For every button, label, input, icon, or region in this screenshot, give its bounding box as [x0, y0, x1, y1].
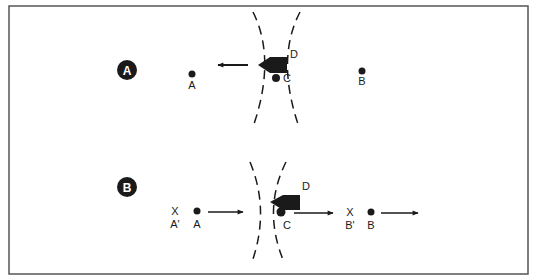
point-d-label: D: [290, 48, 298, 60]
point-b-label: B: [358, 75, 365, 87]
point-b-label: B: [367, 219, 374, 231]
point-a-dot: [194, 208, 201, 215]
point-a-dot: [189, 71, 196, 78]
point-a-prime-label: A': [170, 218, 179, 230]
point-c-label: C: [283, 72, 291, 84]
point-b-prime-label: B': [345, 219, 354, 231]
point-b-dot: [368, 209, 375, 216]
point-b-dot: [359, 68, 366, 75]
panel-a: A A D C B: [117, 12, 366, 124]
point-c-dot: [277, 208, 286, 217]
point-c-dot: [272, 74, 280, 82]
point-a-label: A: [193, 218, 201, 230]
panel-a-badge: A: [117, 60, 137, 80]
ship-d-shape: [258, 57, 287, 73]
point-b-prime-marker: X: [346, 206, 354, 218]
panel-b: B X A' A D C X B' B: [117, 162, 418, 262]
point-a-prime-marker: X: [171, 205, 179, 217]
panel-b-badge: B: [117, 177, 137, 197]
point-a-label: A: [188, 79, 196, 91]
svg-text:B: B: [123, 181, 132, 195]
point-d-label: D: [302, 180, 310, 192]
point-c-label: C: [283, 219, 291, 231]
svg-text:A: A: [123, 64, 132, 78]
diagram-frame: [9, 6, 528, 274]
diagram-canvas: A A D C B B X A' A: [0, 0, 543, 280]
